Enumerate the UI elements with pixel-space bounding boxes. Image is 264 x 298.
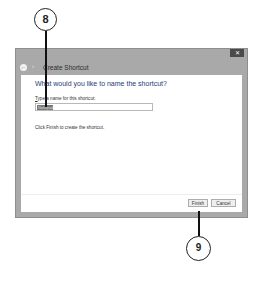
title-bar: ← › Create Shortcut xyxy=(16,61,247,75)
dialog-content: What would you like to name the shortcut… xyxy=(21,75,242,212)
divider xyxy=(21,194,242,195)
callout-8: 8 xyxy=(34,8,57,31)
finish-hint: Click Finish to create the shortcut. xyxy=(35,125,104,130)
cancel-button[interactable]: Cancel xyxy=(211,199,236,207)
separator: › xyxy=(32,63,34,69)
back-arrow-icon[interactable]: ← xyxy=(20,64,27,71)
page-heading: What would you like to name the shortcut… xyxy=(35,80,167,87)
shortcut-name-input[interactable]: Notepad xyxy=(35,103,153,111)
dialog-title: Create Shortcut xyxy=(43,64,89,71)
create-shortcut-dialog: ✕ ← › Create Shortcut What would you lik… xyxy=(15,48,248,218)
close-icon: ✕ xyxy=(235,50,240,56)
finish-button[interactable]: Finish xyxy=(188,199,208,207)
close-button[interactable]: ✕ xyxy=(230,49,244,57)
callout-8-pointer xyxy=(45,31,47,107)
callout-9: 9 xyxy=(186,236,211,261)
callout-9-pointer xyxy=(198,211,200,236)
